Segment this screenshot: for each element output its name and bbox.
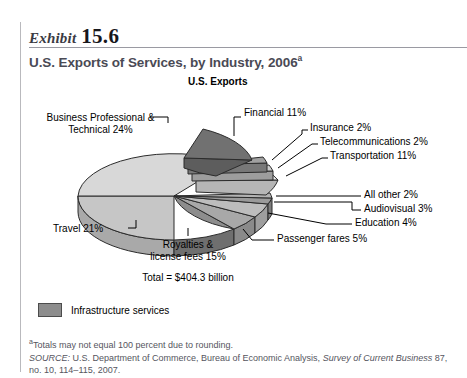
label-financial: Financial 11%	[244, 107, 306, 119]
page-title-text: U.S. Exports of Services, by Industry, 2…	[29, 55, 298, 70]
label-business-professional: Business Professional & Technical 24%	[33, 112, 168, 136]
leader-education	[268, 213, 352, 224]
label-transportation: Transportation 11%	[330, 150, 416, 162]
transportation-slice-side	[196, 180, 278, 195]
chart-total: Total = $404.3 billion	[133, 272, 243, 284]
label-passenger-fares: Passenger fares 5%	[277, 233, 367, 245]
label-royalties: Royalties & license fees 15%	[133, 239, 243, 263]
legend-swatch-infrastructure-services	[38, 303, 62, 317]
exhibit-page: Exhibit15.6 U.S. Exports of Services, by…	[0, 0, 467, 378]
leader-audiovisual	[274, 202, 361, 210]
footnote-rounding-text: Totals may not equal 100 percent due to …	[33, 340, 233, 350]
label-royalties-line1: Royalties &	[163, 239, 214, 250]
pie-chart: Business Professional & Technical 24% Fi…	[20, 76, 467, 291]
leader-transportation	[286, 158, 328, 176]
label-all-other: All other 2%	[364, 189, 418, 201]
page-title: U.S. Exports of Services, by Industry, 2…	[29, 53, 302, 70]
leader-telecommunications	[278, 144, 318, 168]
source-text-2: 87,	[432, 353, 447, 363]
footnotes: aTotals may not equal 100 percent due to…	[29, 336, 454, 377]
exhibit-number: 15.6	[81, 24, 119, 48]
chart-area: U.S. Exports	[20, 76, 467, 291]
exhibit-heading: Exhibit15.6	[29, 24, 119, 49]
label-business-professional-line2: Technical 24%	[68, 124, 132, 135]
source-journal: Survey of Current Business	[323, 353, 433, 363]
page-title-footnote-marker: a	[298, 53, 303, 63]
label-insurance: Insurance 2%	[310, 122, 371, 134]
financial-slice-top	[184, 129, 252, 160]
header-divider	[29, 47, 467, 48]
legend-label-infrastructure-services: Infrastructure services	[71, 305, 169, 316]
label-audiovisual: Audiovisual 3%	[364, 203, 432, 215]
chart-legend: Infrastructure services	[38, 303, 169, 317]
source-line-1: SOURCE: U.S. Department of Commerce, Bur…	[29, 352, 454, 365]
footnote-rounding: aTotals may not equal 100 percent due to…	[29, 336, 454, 352]
exhibit-label: Exhibit	[29, 30, 76, 46]
source-label: SOURCE:	[29, 353, 70, 363]
leader-insurance	[272, 130, 308, 160]
label-business-professional-line1: Business Professional &	[47, 112, 155, 123]
label-royalties-line2: license fees 15%	[150, 251, 226, 262]
label-travel: Travel 21%	[53, 223, 103, 235]
leader-financial	[234, 117, 241, 136]
source-line-2: no. 10, 114–115, 2007.	[29, 364, 454, 377]
source-text-1: U.S. Department of Commerce, Bureau of E…	[70, 353, 323, 363]
label-education: Education 4%	[355, 217, 417, 229]
label-telecommunications: Telecommunications 2%	[320, 136, 428, 148]
